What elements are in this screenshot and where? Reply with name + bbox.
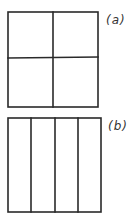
figure-a-horizontal-divider (8, 57, 98, 58)
figure-b-label: (b) (108, 120, 128, 132)
figure-a-grid (8, 12, 98, 107)
figure-b-strips (8, 118, 101, 212)
diagram-canvas (0, 0, 140, 220)
figure-a-label: (a) (106, 14, 126, 26)
